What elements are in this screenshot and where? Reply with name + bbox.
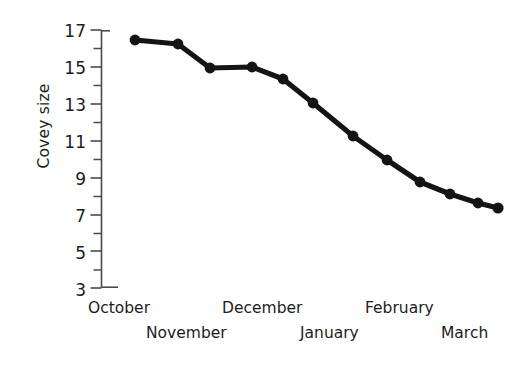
data-point	[173, 39, 184, 50]
x-tick-label-december: December	[222, 300, 302, 316]
data-point	[308, 98, 319, 109]
data-point-markers	[130, 35, 504, 214]
data-point	[130, 35, 141, 46]
data-line	[135, 40, 498, 208]
x-tick-label-february: February	[365, 300, 434, 316]
x-tick-label-october: October	[88, 300, 150, 316]
data-point	[382, 155, 393, 166]
data-point	[415, 177, 426, 188]
x-tick-label-march: March	[441, 325, 488, 341]
data-point	[247, 62, 258, 73]
chart-figure: Covey size 17 15 13 11 9 7 5 3	[0, 0, 532, 366]
data-point	[278, 74, 289, 85]
axis-spine	[102, 30, 119, 288]
data-point	[348, 131, 359, 142]
x-tick-label-january: January	[300, 325, 359, 341]
data-point	[445, 189, 456, 200]
data-point	[492, 202, 503, 213]
data-point	[205, 63, 216, 74]
data-point	[473, 198, 484, 209]
y-axis-minor-ticks	[94, 49, 102, 271]
x-tick-label-november: November	[146, 325, 227, 341]
